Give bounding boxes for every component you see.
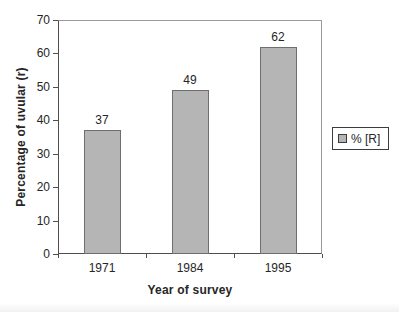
y-tick-mark <box>53 187 58 188</box>
scan-shadow <box>0 303 399 312</box>
y-tick-label: 50 <box>18 80 50 94</box>
x-category-label: 1984 <box>160 261 220 275</box>
y-tick-mark <box>53 87 58 88</box>
x-axis-title: Year of survey <box>58 283 322 297</box>
y-tick-mark <box>53 154 58 155</box>
y-tick-label: 40 <box>18 113 50 127</box>
bar-value-label: 37 <box>82 113 122 127</box>
y-tick-label: 30 <box>18 147 50 161</box>
x-tick-mark <box>234 254 235 258</box>
y-tick-label: 70 <box>18 13 50 27</box>
legend-swatch-icon <box>338 134 347 143</box>
x-tick-mark <box>58 254 59 258</box>
bar <box>84 130 121 254</box>
y-tick-mark <box>53 221 58 222</box>
bar-chart-figure: Percentage of uvular (r) 010203040506070… <box>0 0 399 312</box>
bar-value-label: 62 <box>258 30 298 44</box>
x-tick-mark <box>322 254 323 258</box>
y-tick-mark <box>53 53 58 54</box>
x-tick-mark <box>146 254 147 258</box>
y-tick-label: 0 <box>18 247 50 261</box>
bar <box>260 47 297 254</box>
y-tick-mark <box>53 120 58 121</box>
bar <box>172 90 209 254</box>
y-tick-label: 20 <box>18 180 50 194</box>
bar-value-label: 49 <box>170 73 210 87</box>
x-category-label: 1995 <box>248 261 308 275</box>
x-category-label: 1971 <box>72 261 132 275</box>
y-tick-label: 10 <box>18 214 50 228</box>
y-tick-label: 60 <box>18 46 50 60</box>
legend: % [R] <box>332 127 389 150</box>
y-tick-mark <box>53 20 58 21</box>
legend-label: % [R] <box>351 132 380 146</box>
